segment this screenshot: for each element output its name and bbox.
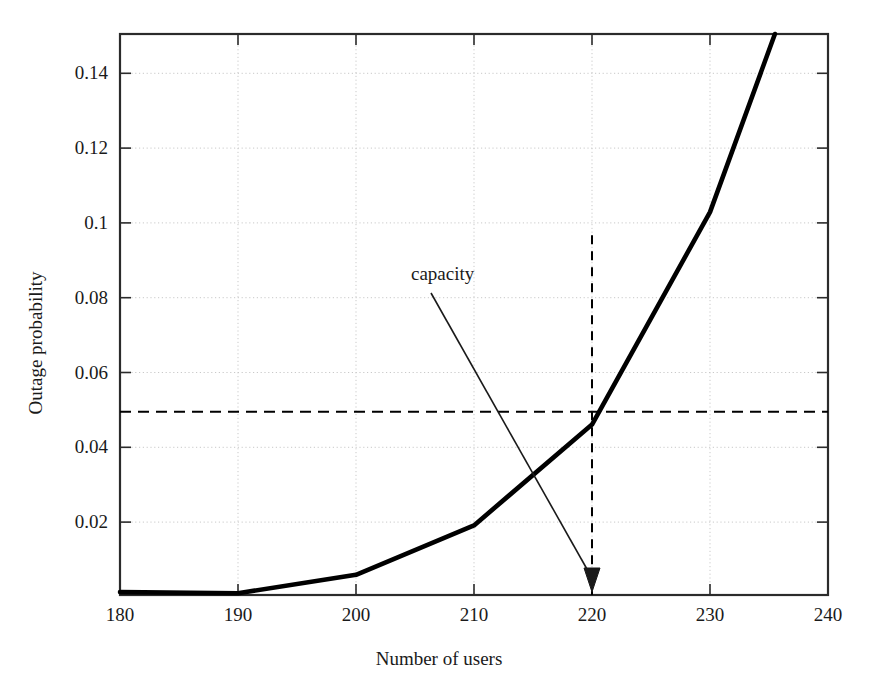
chart-figure: 0.02 0.04 0.06 0.08 0.1 0.12 0.14 180 19…	[0, 0, 878, 688]
y-tick-label-0.1: 0.1	[0, 212, 108, 234]
y-axis-label: Outage probability	[25, 243, 47, 443]
y-tick-label-0.14: 0.14	[0, 62, 108, 84]
capacity-annotation-label: capacity	[411, 263, 474, 285]
x-gridlines	[238, 34, 710, 595]
y-tick-label-0.12: 0.12	[0, 137, 108, 159]
x-tick-label-230: 230	[696, 604, 725, 626]
y-tick-label-0.04: 0.04	[0, 436, 108, 458]
y-tick-label-0.02: 0.02	[0, 511, 108, 533]
x-axis-label: Number of users	[0, 648, 878, 670]
outage-probability-curve	[120, 34, 775, 593]
y-tick-label-0.06: 0.06	[0, 362, 108, 384]
chart-plot-area	[0, 0, 878, 688]
x-tick-label-220: 220	[578, 604, 607, 626]
x-tick-label-200: 200	[342, 604, 371, 626]
y-tick-label-0.08: 0.08	[0, 287, 108, 309]
x-tick-label-210: 210	[460, 604, 489, 626]
x-tick-label-180: 180	[106, 604, 135, 626]
capacity-annotation-arrow	[431, 293, 600, 592]
x-tick-label-240: 240	[814, 604, 843, 626]
x-tick-label-190: 190	[224, 604, 253, 626]
